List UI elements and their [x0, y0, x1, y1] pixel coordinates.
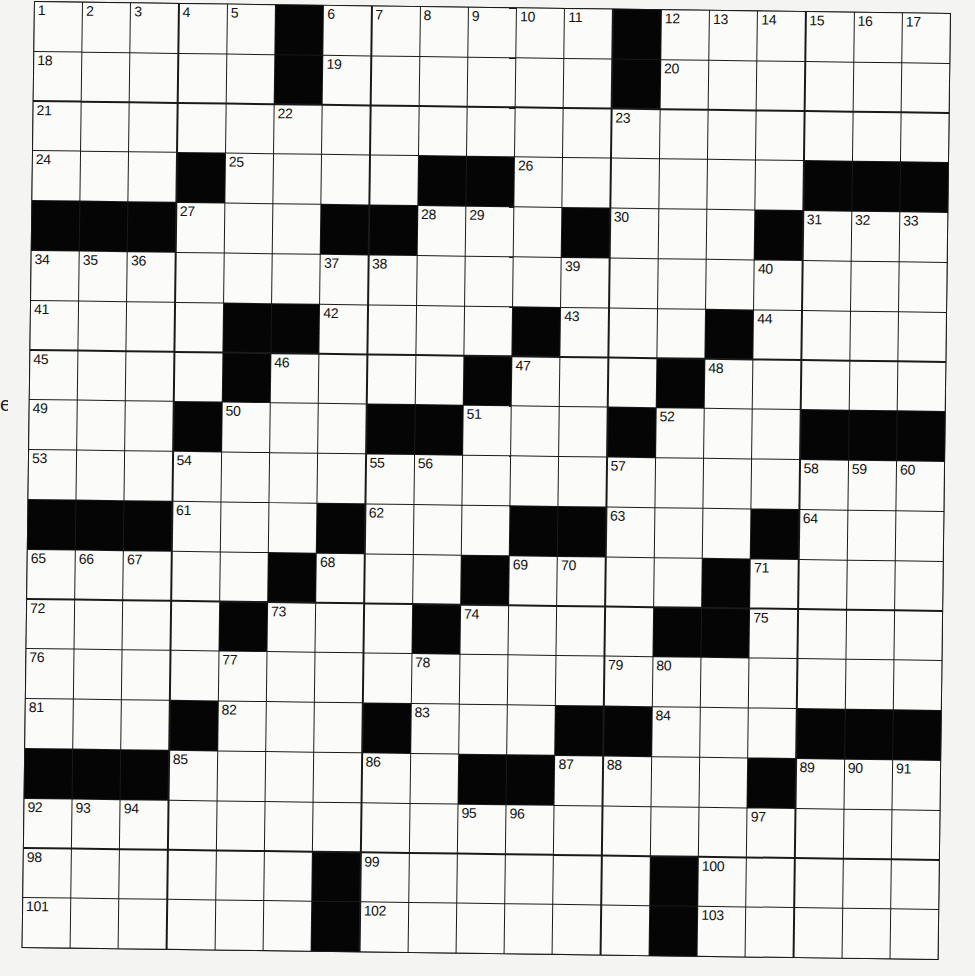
answer-cell[interactable]: 29	[466, 207, 514, 256]
answer-cell[interactable]	[853, 112, 901, 161]
answer-cell[interactable]	[410, 804, 458, 853]
answer-cell[interactable]	[700, 708, 748, 757]
answer-cell[interactable]: 53	[28, 450, 76, 499]
answer-cell[interactable]	[122, 700, 170, 749]
answer-cell[interactable]: 5	[227, 5, 275, 54]
answer-cell[interactable]	[174, 353, 222, 402]
answer-cell[interactable]: 36	[128, 252, 176, 301]
answer-cell[interactable]: 100	[698, 857, 746, 906]
answer-cell[interactable]	[127, 302, 175, 351]
answer-cell[interactable]	[457, 904, 505, 953]
answer-cell[interactable]	[217, 752, 265, 801]
answer-cell[interactable]	[367, 355, 415, 404]
answer-cell[interactable]	[753, 360, 801, 409]
answer-cell[interactable]: 83	[411, 704, 459, 753]
answer-cell[interactable]	[749, 709, 797, 758]
answer-cell[interactable]	[757, 61, 805, 110]
answer-cell[interactable]	[703, 509, 751, 558]
answer-cell[interactable]	[416, 356, 464, 405]
answer-cell[interactable]	[508, 656, 556, 705]
answer-cell[interactable]	[756, 111, 804, 160]
answer-cell[interactable]: 42	[320, 305, 368, 354]
answer-cell[interactable]: 8	[420, 7, 468, 56]
answer-cell[interactable]	[464, 306, 512, 355]
answer-cell[interactable]: 37	[320, 255, 368, 304]
answer-cell[interactable]: 70	[558, 557, 606, 606]
answer-cell[interactable]: 97	[747, 808, 795, 857]
answer-cell[interactable]	[513, 257, 561, 306]
answer-cell[interactable]	[803, 261, 851, 310]
answer-cell[interactable]	[314, 753, 362, 802]
answer-cell[interactable]: 81	[25, 699, 73, 748]
answer-cell[interactable]	[655, 508, 703, 557]
answer-cell[interactable]	[318, 454, 366, 503]
answer-cell[interactable]	[894, 661, 942, 710]
answer-cell[interactable]: 61	[172, 502, 220, 551]
answer-cell[interactable]	[846, 660, 894, 709]
answer-cell[interactable]	[264, 902, 312, 951]
answer-cell[interactable]: 63	[606, 508, 654, 557]
answer-cell[interactable]: 67	[124, 551, 172, 600]
answer-cell[interactable]	[557, 607, 605, 656]
answer-cell[interactable]	[896, 511, 944, 560]
answer-cell[interactable]: 34	[31, 251, 79, 300]
answer-cell[interactable]: 89	[796, 759, 844, 808]
answer-cell[interactable]	[269, 503, 317, 552]
answer-cell[interactable]	[462, 506, 510, 555]
answer-cell[interactable]	[891, 910, 939, 959]
answer-cell[interactable]: 48	[705, 359, 753, 408]
answer-cell[interactable]: 28	[418, 206, 466, 255]
answer-cell[interactable]	[178, 54, 226, 103]
answer-cell[interactable]	[77, 401, 125, 450]
answer-cell[interactable]: 18	[34, 52, 82, 101]
answer-cell[interactable]: 94	[120, 800, 168, 849]
answer-cell[interactable]	[123, 601, 171, 650]
answer-cell[interactable]: 56	[414, 455, 462, 504]
answer-cell[interactable]	[225, 204, 273, 253]
answer-cell[interactable]	[892, 810, 940, 859]
answer-cell[interactable]	[605, 607, 653, 656]
answer-cell[interactable]	[708, 110, 756, 159]
answer-cell[interactable]: 84	[652, 707, 700, 756]
answer-cell[interactable]	[73, 700, 121, 749]
answer-cell[interactable]	[899, 262, 947, 311]
answer-cell[interactable]	[798, 610, 846, 659]
answer-cell[interactable]: 15	[806, 12, 854, 61]
answer-cell[interactable]	[516, 58, 564, 107]
answer-cell[interactable]: 7	[372, 6, 420, 55]
answer-cell[interactable]	[364, 604, 412, 653]
answer-cell[interactable]: 12	[661, 10, 709, 59]
answer-cell[interactable]	[169, 801, 217, 850]
answer-cell[interactable]	[78, 351, 126, 400]
answer-cell[interactable]	[706, 260, 754, 309]
answer-cell[interactable]	[556, 656, 604, 705]
answer-cell[interactable]: 96	[506, 805, 554, 854]
answer-cell[interactable]	[603, 806, 651, 855]
answer-cell[interactable]: 51	[463, 406, 511, 455]
answer-cell[interactable]	[176, 253, 224, 302]
answer-cell[interactable]: 25	[225, 154, 273, 203]
answer-cell[interactable]	[315, 703, 363, 752]
answer-cell[interactable]	[126, 352, 174, 401]
answer-cell[interactable]	[221, 503, 269, 552]
answer-cell[interactable]	[847, 561, 895, 610]
answer-cell[interactable]	[699, 808, 747, 857]
answer-cell[interactable]: 35	[79, 252, 127, 301]
answer-cell[interactable]	[368, 305, 416, 354]
answer-cell[interactable]: 73	[268, 603, 316, 652]
answer-cell[interactable]	[459, 705, 507, 754]
answer-cell[interactable]: 50	[222, 403, 270, 452]
answer-cell[interactable]	[850, 361, 898, 410]
answer-cell[interactable]	[606, 557, 654, 606]
answer-cell[interactable]	[515, 108, 563, 157]
answer-cell[interactable]: 30	[610, 209, 658, 258]
answer-cell[interactable]	[319, 354, 367, 403]
answer-cell[interactable]	[853, 63, 901, 112]
answer-cell[interactable]	[602, 856, 650, 905]
answer-cell[interactable]	[805, 62, 853, 111]
answer-cell[interactable]	[171, 651, 219, 700]
answer-cell[interactable]	[844, 810, 892, 859]
answer-cell[interactable]	[419, 57, 467, 106]
answer-cell[interactable]	[266, 702, 314, 751]
answer-cell[interactable]	[747, 858, 795, 907]
